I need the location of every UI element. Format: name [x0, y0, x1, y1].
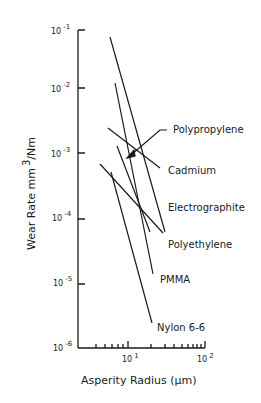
axes [78, 30, 205, 348]
line-cadmium [108, 128, 160, 168]
y-tick-label: 10-1 [51, 23, 70, 36]
label-cadmium: Cadmium [168, 165, 216, 176]
x-axis-title: Asperity Radius (μm) [81, 374, 197, 387]
y-axis-title: Wear Rate mm3/Nm [21, 137, 38, 250]
label-polyethylene: Polyethylene [168, 239, 232, 250]
line-nylon-6-6 [111, 172, 152, 323]
polypropylene-leader [131, 130, 167, 155]
y-axis-title-main: Wear Rate mm [25, 168, 38, 250]
y-tick-label: 10-6 [53, 340, 73, 353]
y-tick-label: 10-2 [51, 81, 70, 94]
series-labels: Polypropylene Cadmium Electrographite Po… [157, 124, 245, 333]
line-polyethylene [100, 164, 163, 233]
label-nylon-6-6: Nylon 6-6 [157, 322, 205, 333]
wear-rate-chart: 10-1 10-2 10-3 10-4 10-5 10-6 101 102 As… [0, 0, 261, 403]
label-electrographite: Electrographite [168, 202, 245, 213]
label-polypropylene: Polypropylene [173, 124, 244, 135]
y-ticks [78, 30, 85, 284]
y-tick-label: 10-3 [51, 146, 70, 159]
x-tick-label: 102 [197, 352, 214, 364]
line-electrographite [110, 37, 165, 232]
svg-text:Wear Rate mm3/Nm: Wear Rate mm3/Nm [21, 137, 38, 250]
y-tick-labels: 10-1 10-2 10-3 10-4 10-5 10-6 [51, 23, 73, 353]
x-tick-label: 101 [122, 352, 139, 364]
x-ticks [96, 341, 205, 348]
y-tick-label: 10-5 [53, 275, 72, 288]
line-pmma [115, 83, 153, 274]
line-polypropylene [117, 146, 150, 232]
y-axis-title-tail: /Nm [25, 137, 38, 160]
series-lines [100, 37, 167, 323]
label-pmma: PMMA [160, 274, 190, 285]
x-tick-labels: 101 102 [122, 352, 214, 364]
y-tick-label: 10-4 [52, 210, 72, 223]
